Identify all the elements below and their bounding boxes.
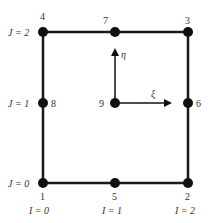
row-label-j2: J = 2 (8, 27, 29, 38)
node-2 (183, 178, 193, 188)
eta-label: η (121, 49, 126, 60)
node-5 (110, 178, 120, 188)
row-label-j1: J = 1 (8, 98, 29, 109)
node-3 (183, 27, 193, 37)
col-label-i2: I = 2 (174, 205, 195, 216)
element-diagram: η ξ 1 2 3 4 5 6 7 8 9 J = 2 J = 1 J = 0 … (0, 0, 212, 223)
node-label-8: 8 (51, 98, 56, 109)
node-label-1: 1 (40, 191, 45, 202)
node-label-6: 6 (196, 98, 201, 109)
xi-label: ξ (151, 88, 156, 100)
node-4 (38, 27, 48, 37)
node-8 (38, 98, 48, 108)
node-label-2: 2 (185, 191, 190, 202)
col-label-i0: I = 0 (28, 205, 49, 216)
node-7 (110, 27, 120, 37)
col-label-i1: I = 1 (101, 205, 122, 216)
node-9 (110, 98, 120, 108)
node-1 (38, 178, 48, 188)
row-label-j0: J = 0 (8, 178, 29, 189)
node-label-9: 9 (99, 98, 104, 109)
node-6 (183, 98, 193, 108)
node-label-7: 7 (103, 15, 108, 26)
node-label-5: 5 (112, 191, 117, 202)
node-label-4: 4 (40, 11, 45, 22)
node-label-3: 3 (185, 15, 190, 26)
